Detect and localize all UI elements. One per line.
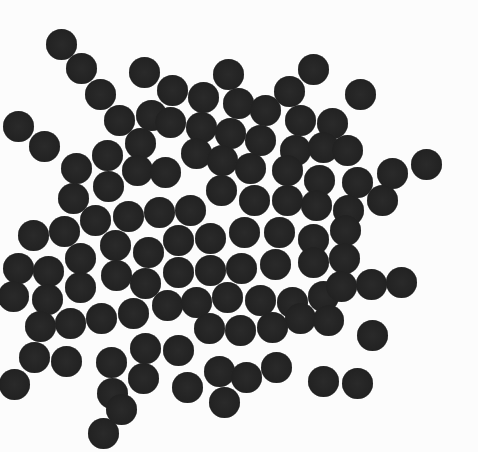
dark-disc [207, 145, 238, 176]
dark-disc [274, 76, 305, 107]
dark-disc [33, 256, 64, 287]
dark-disc [212, 282, 243, 313]
dark-disc [80, 205, 111, 236]
dark-disc [326, 271, 357, 302]
dark-disc [163, 335, 194, 366]
dark-disc [0, 369, 30, 400]
dark-disc [144, 197, 175, 228]
dark-disc [298, 247, 329, 278]
dark-disc [411, 149, 442, 180]
dark-disc [55, 308, 86, 339]
dark-disc [175, 195, 206, 226]
dark-disc [204, 356, 235, 387]
dark-disc [122, 155, 153, 186]
dark-disc [128, 363, 159, 394]
dark-disc [231, 362, 262, 393]
dark-disc [92, 140, 123, 171]
dark-disc [3, 253, 34, 284]
dark-disc [195, 255, 226, 286]
dark-disc [264, 217, 295, 248]
dark-disc [209, 387, 240, 418]
dark-disc [29, 131, 60, 162]
dark-disc [19, 342, 50, 373]
dark-disc [272, 155, 303, 186]
dark-disc [157, 75, 188, 106]
dark-disc [356, 269, 387, 300]
dark-disc [257, 312, 288, 343]
dark-disc [113, 201, 144, 232]
dark-disc [85, 79, 116, 110]
dark-disc [235, 153, 266, 184]
dark-disc [88, 418, 119, 449]
dark-disc [49, 216, 80, 247]
dark-disc [155, 107, 186, 138]
dark-disc [332, 135, 363, 166]
dark-disc [245, 125, 276, 156]
dark-disc [130, 333, 161, 364]
dark-disc [285, 105, 316, 136]
dark-disc [194, 313, 225, 344]
dark-disc [93, 171, 124, 202]
dark-disc [357, 320, 388, 351]
dark-disc [100, 230, 131, 261]
dark-disc [223, 88, 254, 119]
dark-disc [260, 249, 291, 280]
dark-disc [150, 157, 181, 188]
dark-disc [272, 185, 303, 216]
dark-disc [25, 311, 56, 342]
dark-disc [386, 267, 417, 298]
dark-disc [66, 53, 97, 84]
dark-disc [129, 57, 160, 88]
dark-disc [345, 79, 376, 110]
dark-disc [298, 54, 329, 85]
dark-disc [3, 111, 34, 142]
dark-disc [125, 128, 156, 159]
dark-disc [51, 346, 82, 377]
dark-disc [65, 243, 96, 274]
dark-disc [133, 237, 164, 268]
dark-disc [308, 366, 339, 397]
dark-disc [239, 185, 270, 216]
dark-disc [18, 220, 49, 251]
dark-disc [86, 303, 117, 334]
dark-disc [101, 260, 132, 291]
photo-scene [0, 0, 478, 452]
dark-disc [342, 368, 373, 399]
dark-disc [0, 281, 29, 312]
dark-disc [313, 305, 344, 336]
dark-disc [285, 303, 316, 334]
dark-disc [226, 253, 257, 284]
dark-disc [261, 352, 292, 383]
dark-disc [229, 217, 260, 248]
dark-disc [152, 290, 183, 321]
dark-disc [329, 243, 360, 274]
dark-disc [118, 298, 149, 329]
dark-disc [163, 257, 194, 288]
dark-disc [367, 185, 398, 216]
dark-disc [245, 285, 276, 316]
dark-disc [225, 315, 256, 346]
dark-disc [301, 190, 332, 221]
dark-disc [206, 175, 237, 206]
dark-disc [61, 153, 92, 184]
dark-disc [330, 215, 361, 246]
dark-disc [195, 223, 226, 254]
dark-disc [172, 372, 203, 403]
dark-disc [213, 59, 244, 90]
dark-disc [188, 82, 219, 113]
dark-disc [65, 272, 96, 303]
dark-disc [163, 225, 194, 256]
dark-disc [377, 158, 408, 189]
dark-disc [32, 284, 63, 315]
dark-disc [96, 347, 127, 378]
dark-disc [215, 118, 246, 149]
